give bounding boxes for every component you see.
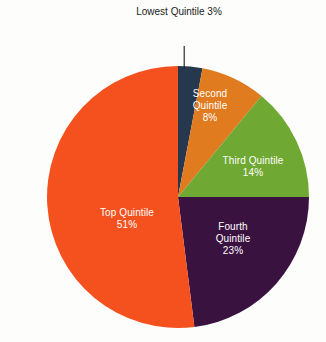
- pie-slice-group: [47, 66, 309, 328]
- pie-chart-canvas: [0, 0, 326, 342]
- pie-slice-top-quintile: [47, 66, 194, 328]
- pie-chart: Lowest Quintile 3% Second Quintile 8% Th…: [0, 0, 326, 342]
- lowest-quintile-name-line1: Lowest: [136, 6, 168, 17]
- pie-slice-fourth-quintile: [178, 197, 309, 327]
- lowest-quintile-value: 3%: [207, 6, 221, 17]
- lowest-quintile-name-line2: Quintile: [171, 6, 205, 17]
- slice-label-lowest-quintile: Lowest Quintile 3%: [134, 6, 224, 19]
